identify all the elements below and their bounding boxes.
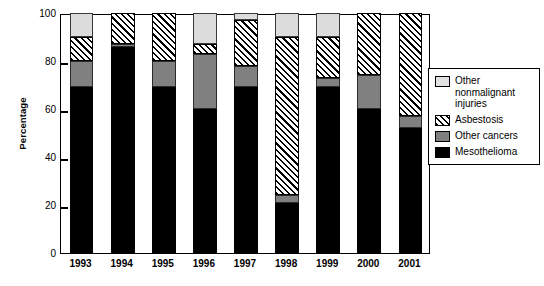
y-tick-mark xyxy=(61,207,68,209)
bar-segment-mesothelioma xyxy=(193,109,217,253)
stacked-bar xyxy=(152,13,176,253)
bar-column xyxy=(225,15,266,253)
legend-swatch-icon xyxy=(435,131,450,142)
legend-swatch-icon xyxy=(435,115,450,126)
bar-segment-asbestosis xyxy=(399,13,423,116)
bar-column xyxy=(102,15,143,253)
y-tick-label: 0 xyxy=(50,248,56,259)
bar-segment-other-cancers xyxy=(399,116,423,128)
stacked-bar-chart: Percentage 020406080100 1993199419951996… xyxy=(0,0,544,286)
stacked-bar xyxy=(399,13,423,253)
bar-segment-mesothelioma xyxy=(399,128,423,253)
bar-segment-other-nonmalignant xyxy=(316,13,340,37)
legend-label: Mesothelioma xyxy=(455,146,517,158)
bar-segment-other-cancers xyxy=(357,75,381,109)
stacked-bar xyxy=(234,13,258,253)
y-tick-mark xyxy=(61,159,68,161)
legend-item-other-cancers: Other cancers xyxy=(435,130,534,142)
bar-segment-mesothelioma xyxy=(275,203,299,253)
y-axis-label: Percentage xyxy=(17,79,28,169)
legend-swatch-icon xyxy=(435,147,450,158)
bar-segment-mesothelioma xyxy=(111,47,135,253)
legend-label: Other nonmalignant injuries xyxy=(455,75,534,110)
y-tick-label: 20 xyxy=(45,200,56,211)
y-tick-mark xyxy=(61,111,68,113)
bar-segment-mesothelioma xyxy=(152,87,176,253)
plot-area: 020406080100 xyxy=(60,14,430,254)
bar-column xyxy=(308,15,349,253)
legend-item-other-nonmalignant: Other nonmalignant injuries xyxy=(435,75,534,110)
bar-segment-other-nonmalignant xyxy=(193,13,217,44)
chart-legend: Other nonmalignant injuriesAsbestosisOth… xyxy=(428,68,540,165)
bars-layer xyxy=(61,15,429,253)
y-tick-label: 40 xyxy=(45,152,56,163)
bar-segment-asbestosis xyxy=(316,37,340,78)
y-tick-label: 60 xyxy=(45,104,56,115)
bar-segment-asbestosis xyxy=(234,20,258,66)
bar-segment-mesothelioma xyxy=(234,87,258,253)
stacked-bar xyxy=(193,13,217,253)
bar-column xyxy=(61,15,102,253)
x-tick-label: 1994 xyxy=(101,258,142,269)
bar-segment-other-cancers xyxy=(70,61,94,87)
x-tick-label: 2001 xyxy=(389,258,430,269)
bar-column xyxy=(184,15,225,253)
x-tick-label: 1996 xyxy=(183,258,224,269)
bar-column xyxy=(143,15,184,253)
legend-item-asbestosis: Asbestosis xyxy=(435,114,534,126)
y-tick-label: 80 xyxy=(45,56,56,67)
bar-column xyxy=(390,15,431,253)
x-tick-label: 1995 xyxy=(142,258,183,269)
legend-swatch-icon xyxy=(435,76,450,87)
bar-segment-other-cancers xyxy=(152,61,176,87)
y-tick-label: 100 xyxy=(39,8,56,19)
bar-segment-other-cancers xyxy=(234,66,258,88)
bar-segment-mesothelioma xyxy=(316,87,340,253)
legend-label: Other cancers xyxy=(455,130,518,142)
bar-column xyxy=(267,15,308,253)
bar-segment-other-nonmalignant xyxy=(275,13,299,37)
bar-segment-other-nonmalignant xyxy=(70,13,94,37)
bar-segment-mesothelioma xyxy=(70,87,94,253)
stacked-bar xyxy=(316,13,340,253)
bar-segment-asbestosis xyxy=(275,37,299,195)
bar-segment-asbestosis xyxy=(111,13,135,44)
legend-label: Asbestosis xyxy=(455,114,503,126)
bar-segment-other-nonmalignant xyxy=(234,13,258,20)
bar-segment-asbestosis xyxy=(357,13,381,75)
stacked-bar xyxy=(70,13,94,253)
x-tick-label: 1999 xyxy=(307,258,348,269)
x-tick-label: 1998 xyxy=(266,258,307,269)
x-tick-label: 1993 xyxy=(60,258,101,269)
x-axis-labels: 199319941995199619971998199920002001 xyxy=(60,258,430,276)
bar-segment-asbestosis xyxy=(193,44,217,54)
bar-segment-other-cancers xyxy=(193,54,217,109)
legend-item-mesothelioma: Mesothelioma xyxy=(435,146,534,158)
stacked-bar xyxy=(357,13,381,253)
bar-segment-asbestosis xyxy=(70,37,94,61)
bar-segment-asbestosis xyxy=(152,13,176,61)
stacked-bar xyxy=(275,13,299,253)
bar-segment-other-cancers xyxy=(275,195,299,202)
x-tick-label: 1997 xyxy=(224,258,265,269)
bar-segment-other-cancers xyxy=(316,78,340,88)
x-tick-label: 2000 xyxy=(348,258,389,269)
bar-column xyxy=(349,15,390,253)
bar-segment-mesothelioma xyxy=(357,109,381,253)
y-tick-mark xyxy=(61,63,68,65)
stacked-bar xyxy=(111,13,135,253)
